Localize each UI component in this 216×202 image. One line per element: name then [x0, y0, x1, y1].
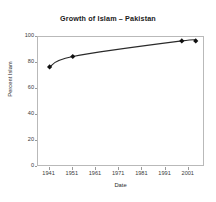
x-tick-label: 1981 — [128, 171, 154, 177]
y-tick-label: 100 — [12, 33, 34, 39]
chart-figure: Growth of Islam – Pakistan Percent Islam… — [0, 0, 216, 202]
series-line — [50, 40, 196, 67]
y-tick-label: 0 — [12, 163, 34, 169]
x-axis-tick-labels: 1941195119611971198119912001 — [37, 167, 204, 179]
x-tick-label: 2001 — [175, 171, 201, 177]
data-point-marker — [179, 38, 184, 43]
y-tick-label: 20 — [12, 137, 34, 143]
y-tick-label: 80 — [12, 59, 34, 65]
x-tick-label: 1961 — [82, 171, 108, 177]
series-markers — [47, 38, 198, 69]
x-tick-label: 1991 — [152, 171, 178, 177]
y-tick-label: 40 — [12, 111, 34, 117]
y-axis-tick-labels: 020406080100 — [10, 36, 34, 166]
chart-title: Growth of Islam – Pakistan — [0, 14, 216, 23]
data-point-marker — [193, 38, 198, 43]
y-tick-label: 60 — [12, 85, 34, 91]
data-point-marker — [70, 54, 75, 59]
plot-area — [37, 36, 204, 166]
x-axis-label: Date — [37, 182, 204, 188]
x-tick-label: 1951 — [59, 171, 85, 177]
x-tick-label: 1941 — [36, 171, 62, 177]
x-tick-label: 1971 — [105, 171, 131, 177]
series-plot — [38, 37, 205, 167]
